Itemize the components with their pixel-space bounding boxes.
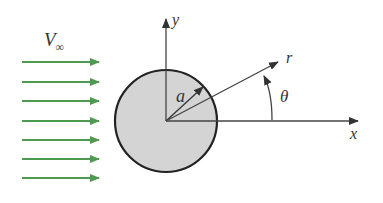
freestream-label: V∞ [44,30,64,53]
freestream-symbol: V [44,29,56,50]
radius-label: a [176,87,185,105]
x-axis-label: x [350,126,357,142]
y-axis-label: y [172,12,179,28]
r-label: r [286,50,292,66]
theta-arc [264,76,272,120]
theta-label: θ [280,88,288,105]
flow-arrows [22,62,99,178]
freestream-subscript: ∞ [56,40,65,54]
